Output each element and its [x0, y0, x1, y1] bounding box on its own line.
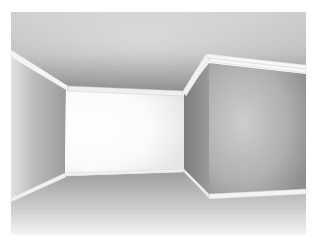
pillar-front-wall [209, 63, 306, 196]
room-render [0, 0, 315, 246]
back-wall [65, 89, 184, 174]
